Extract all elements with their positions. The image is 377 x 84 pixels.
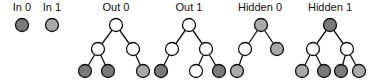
tree-node — [213, 65, 226, 78]
tree-hidden-1: Hidden 1 — [296, 1, 366, 78]
tree-node — [239, 43, 252, 56]
tree-node — [318, 65, 331, 78]
tree-node — [92, 43, 105, 56]
tree-node — [155, 65, 168, 78]
tree-node — [231, 65, 244, 78]
tree-title: Hidden 0 — [238, 1, 282, 13]
tree-node — [353, 65, 366, 78]
tree-node — [324, 19, 337, 32]
tree-node — [110, 19, 123, 32]
tree-hidden-0: Hidden 0 — [231, 1, 284, 78]
tree-node — [137, 65, 150, 78]
tree-node — [166, 43, 179, 56]
tree-title: Out 1 — [176, 1, 203, 13]
tree-node — [190, 65, 203, 78]
tree-node — [307, 43, 320, 56]
tree-node — [255, 19, 268, 32]
tree-node — [79, 65, 92, 78]
legend-item: In 0 — [13, 1, 31, 32]
legend-swatch-icon — [16, 19, 29, 32]
legend-item: In 1 — [43, 1, 61, 32]
tree-out-1: Out 1 — [155, 1, 226, 78]
tree-title: Hidden 1 — [308, 1, 352, 13]
tree-node — [102, 65, 115, 78]
tree-node — [183, 19, 196, 32]
tree-node — [200, 43, 213, 56]
tree-node — [127, 43, 140, 56]
tree-node — [341, 43, 354, 56]
tree-node — [335, 65, 348, 78]
legend: In 0In 1 — [13, 1, 61, 32]
legend-label: In 0 — [13, 1, 31, 13]
trees: Out 0Out 1Hidden 0Hidden 1 — [79, 1, 366, 78]
legend-label: In 1 — [43, 1, 61, 13]
tree-node — [271, 43, 284, 56]
legend-swatch-icon — [46, 19, 59, 32]
tree-title: Out 0 — [103, 1, 130, 13]
tree-node — [296, 65, 309, 78]
tree-out-0: Out 0 — [79, 1, 150, 78]
diagram-canvas: In 0In 1 Out 0Out 1Hidden 0Hidden 1 — [0, 0, 377, 84]
